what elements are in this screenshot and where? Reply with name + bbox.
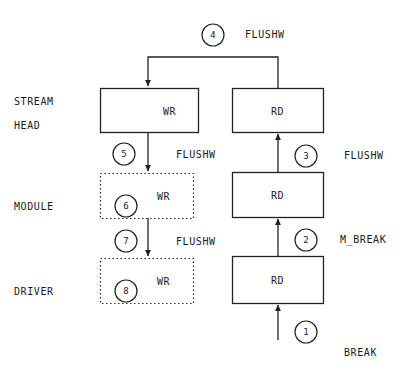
diagram-canvas: STREAM HEAD MODULE DRIVER WR RD WR RD WR… [0,0,413,378]
step-number-7: 7 [115,230,137,252]
step-number-3: 3 [295,145,317,167]
box-label-wr-module: WR [157,191,170,202]
step-number-6: 6 [115,195,137,217]
box-label-wr-driver: WR [157,276,170,287]
signal-label-step-7-flushw: FLUSHW [176,236,216,247]
layer-label-driver: DRIVER [14,286,54,297]
step-number-5: 5 [113,143,135,165]
step-number-8: 8 [115,280,137,302]
layer-label-stream-head-line1: STREAM [14,96,54,107]
step-number-2: 2 [295,229,317,251]
box-label-wr-stream-head: WR [163,106,176,117]
box-label-rd-stream-head: RD [271,106,284,117]
step-number-1: 1 [295,321,317,343]
step-number-4: 4 [202,24,224,46]
signal-label-step-1-break: BREAK [344,347,377,358]
signal-label-step-4-flushw: FLUSHW [245,29,285,40]
box-label-rd-driver: RD [271,275,284,286]
arrow-step-4 [148,57,278,88]
layer-label-module: MODULE [14,201,54,212]
signal-label-step-5-flushw: FLUSHW [176,149,216,160]
diagram-vector-layer [0,0,413,378]
signal-label-step-3-flushw: FLUSHW [344,150,384,161]
signal-label-step-2-m-break: M_BREAK [340,234,386,245]
box-label-rd-module: RD [271,190,284,201]
layer-label-stream-head-line2: HEAD [14,120,40,131]
box-wr-stream-head [101,89,199,133]
